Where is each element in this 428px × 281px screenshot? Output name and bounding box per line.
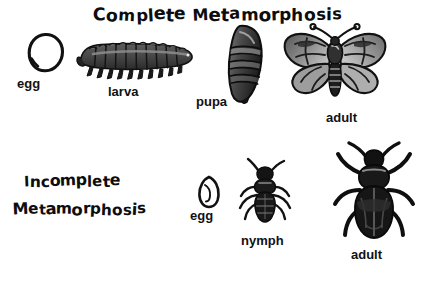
- cut-off-caption-row: [0, 276, 428, 281]
- label-egg-complete: egg: [17, 76, 40, 91]
- art-nymph-bug: [234, 157, 296, 229]
- art-larva-caterpillar: [75, 38, 197, 80]
- label-adult-incomplete: adult: [351, 247, 382, 262]
- metamorphosis-diagram: Complete Metamorphosis egg: [0, 0, 428, 281]
- label-larva: larva: [108, 84, 138, 99]
- art-adult-bug: [330, 140, 418, 248]
- art-egg-incomplete: [196, 175, 222, 209]
- label-nymph: nymph: [241, 233, 284, 248]
- title-incomplete-line1: Incomplete: [24, 172, 121, 190]
- art-pupa-chrysalis: [218, 24, 274, 104]
- title-complete-metamorphosis: Complete Metamorphosis: [93, 4, 342, 24]
- title-incomplete-line2: Metamorphosis: [13, 200, 146, 218]
- art-egg-complete: [26, 32, 66, 74]
- art-adult-moth: [281, 22, 389, 110]
- label-adult-complete: adult: [326, 110, 357, 125]
- label-egg-incomplete: egg: [190, 208, 213, 223]
- label-pupa: pupa: [196, 94, 227, 109]
